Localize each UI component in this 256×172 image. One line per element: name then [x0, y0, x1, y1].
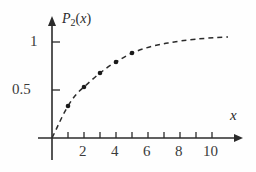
y-axis-title: P2(x) — [62, 12, 91, 28]
y-tick-label-1: 1 — [30, 34, 38, 49]
x-tick-label-4: 4 — [111, 144, 119, 159]
y-axis-title-base: P — [62, 11, 71, 26]
x-tick-label-6: 6 — [143, 144, 151, 159]
data-point-markers — [66, 51, 135, 109]
y-tick-label-0_5: 0.5 — [12, 82, 31, 97]
x-tick-label-2: 2 — [79, 144, 87, 159]
data-curve — [52, 37, 228, 138]
x-axis-ticks — [68, 132, 212, 138]
y-axis-ticks — [52, 42, 60, 90]
x-axis-title: x — [230, 108, 237, 123]
y-axis-title-argument: (x) — [76, 11, 92, 26]
figure-panel: 1 0.5 2 4 6 8 10 P2(x) x — [0, 0, 256, 172]
x-tick-label-8: 8 — [175, 144, 183, 159]
x-tick-label-10: 10 — [203, 144, 218, 159]
